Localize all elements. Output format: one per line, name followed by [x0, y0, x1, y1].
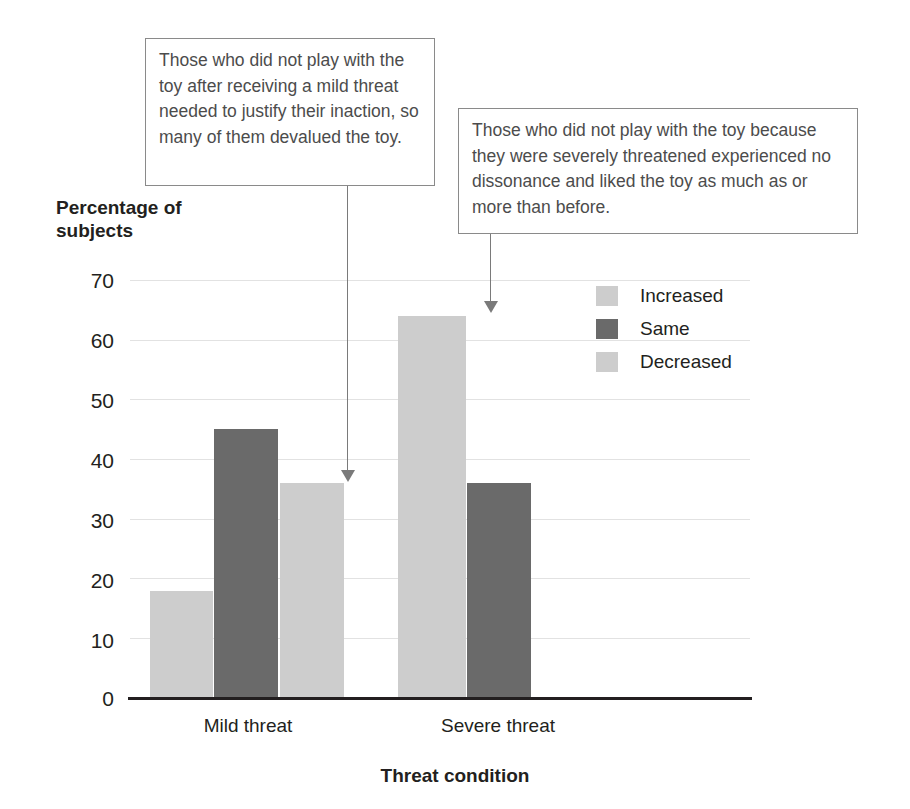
bar-mild-decreased	[280, 483, 344, 698]
annotation-callout-mild-threat: Those who did not play with the toy afte…	[145, 38, 435, 186]
legend: Increased Same Decreased	[596, 279, 826, 378]
legend-label-same: Same	[640, 318, 690, 340]
y-tick-20: 20	[62, 570, 114, 591]
x-tick-mild-threat: Mild threat	[150, 715, 346, 737]
annotation-leader-mild-threat	[347, 186, 348, 472]
bar-mild-same	[214, 429, 278, 698]
y-tick-50: 50	[62, 390, 114, 411]
legend-label-increased: Increased	[640, 285, 723, 307]
x-axis-line	[128, 697, 752, 700]
legend-item-same: Same	[596, 312, 826, 345]
bar-severe-increased	[398, 316, 466, 698]
legend-swatch-same-icon	[596, 319, 618, 339]
y-tick-40: 40	[62, 450, 114, 471]
bar-chart: Percentage of subjects 70 60 50 40 30 20…	[0, 0, 910, 809]
legend-swatch-increased-icon	[596, 286, 618, 306]
x-tick-severe-threat: Severe threat	[398, 715, 598, 737]
y-axis-title-line2: subjects	[56, 219, 246, 242]
annotation-leader-severe-threat	[490, 234, 491, 303]
x-axis-title: Threat condition	[0, 765, 910, 787]
annotation-arrowhead-severe-threat-icon	[484, 301, 498, 313]
legend-swatch-decreased-icon	[596, 352, 618, 372]
legend-item-increased: Increased	[596, 279, 826, 312]
y-tick-0: 0	[62, 688, 114, 709]
y-axis-title-line1: Percentage of	[56, 196, 246, 219]
annotation-callout-severe-threat: Those who did not play with the toy beca…	[458, 108, 858, 234]
y-tick-60: 60	[62, 330, 114, 351]
bar-severe-same	[467, 483, 531, 698]
y-tick-30: 30	[62, 510, 114, 531]
annotation-arrowhead-mild-threat-icon	[341, 470, 355, 482]
bar-mild-increased	[150, 591, 213, 698]
y-tick-70: 70	[62, 270, 114, 291]
legend-item-decreased: Decreased	[596, 345, 826, 378]
y-axis-title: Percentage of subjects	[56, 196, 246, 242]
y-tick-10: 10	[62, 630, 114, 651]
legend-label-decreased: Decreased	[640, 351, 732, 373]
